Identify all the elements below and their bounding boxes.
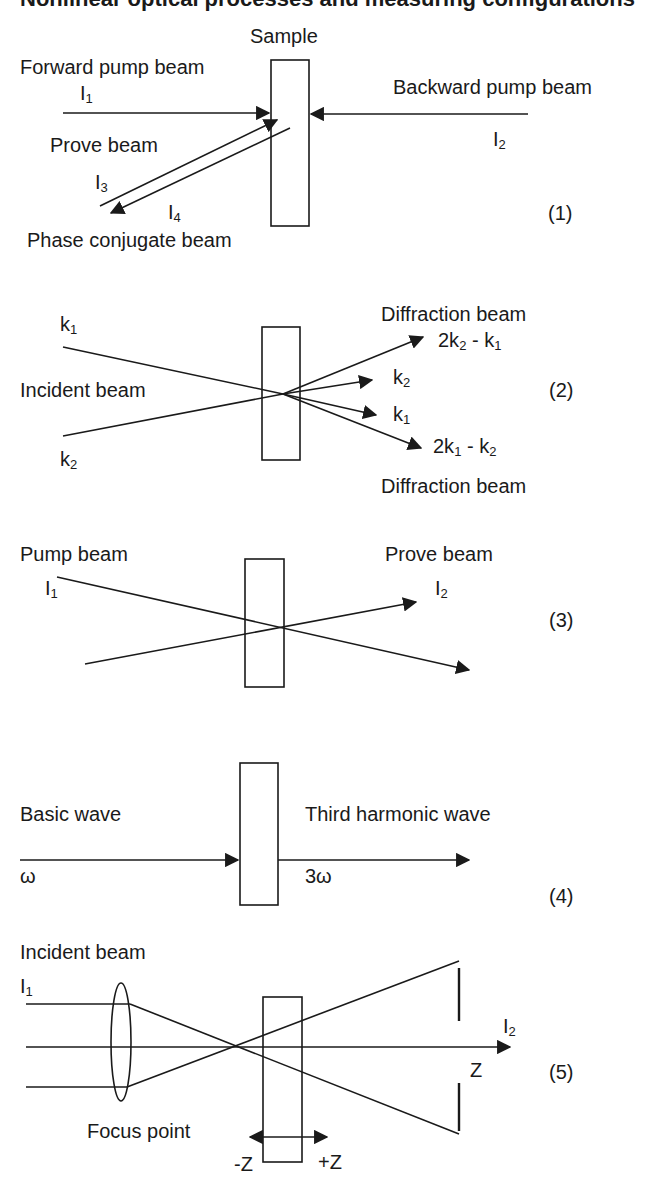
prove-beam-arrow-3: [85, 602, 416, 664]
diagram-number-5: (5): [549, 1062, 573, 1082]
minus-z-label: -Z: [234, 1154, 253, 1174]
diagram-number-1: (1): [548, 203, 572, 223]
output-k1-label: k1: [393, 404, 410, 426]
diagram-3-pump-probe: [57, 559, 469, 687]
incident-beam-label-5: Incident beam: [20, 942, 146, 962]
k2-input-label: k2: [60, 449, 77, 471]
arrow-k2: [283, 380, 372, 394]
diagram-number-4: (4): [549, 886, 573, 906]
sample-label: Sample: [250, 26, 318, 46]
sample-plate-1: [271, 60, 309, 226]
intensity-i1-label-5: I1: [20, 976, 33, 998]
phase-conjugate-label: Phase conjugate beam: [27, 230, 232, 250]
backward-pump-label: Backward pump beam: [393, 77, 592, 97]
pump-beam-arrow: [57, 577, 469, 670]
diffraction-beam-top-label: Diffraction beam: [381, 304, 526, 324]
forward-pump-label: Forward pump beam: [20, 57, 205, 77]
intensity-i1-label-3: I1: [45, 578, 58, 600]
intensity-i3-label: I3: [95, 172, 108, 194]
third-harmonic-label: Third harmonic wave: [305, 804, 491, 824]
focusing-lens: [111, 983, 131, 1101]
three-omega-label: 3ω: [305, 866, 332, 886]
pump-beam-label: Pump beam: [20, 544, 128, 564]
diagram-4-third-harmonic: [20, 763, 469, 905]
intensity-i2-label-5: I2: [503, 1016, 516, 1038]
incident-beam-label: Incident beam: [20, 380, 146, 400]
prove-beam-label: Prove beam: [50, 135, 158, 155]
intensity-i2-label: I2: [493, 129, 506, 151]
sample-plate-4: [240, 763, 278, 905]
intensity-i1-label: I1: [80, 83, 93, 105]
diagram-number-2: (2): [549, 380, 573, 400]
intensity-i2-label-3: I2: [435, 578, 448, 600]
omega-label: ω: [20, 866, 36, 886]
output-2k2-k1-label: 2k2 - k1: [438, 330, 501, 352]
diffraction-beam-bottom-label: Diffraction beam: [381, 476, 526, 496]
prove-beam-label-3: Prove beam: [385, 544, 493, 564]
intensity-i4-label: I4: [168, 202, 181, 224]
output-k2-label: k2: [393, 367, 410, 389]
basic-wave-label: Basic wave: [20, 804, 121, 824]
output-2k1-k2-label: 2k1 - k2: [433, 436, 496, 458]
plus-z-label: +Z: [318, 1152, 342, 1172]
diagram-number-3: (3): [549, 610, 573, 630]
sample-plate-3: [245, 559, 284, 687]
focus-point-label: Focus point: [87, 1121, 190, 1141]
z-axis-label: Z: [470, 1060, 482, 1080]
prove-beam-arrow: [100, 120, 277, 206]
k1-input-label: k1: [60, 314, 77, 336]
